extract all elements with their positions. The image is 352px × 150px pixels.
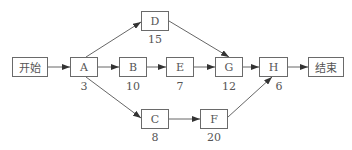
duration-h: 6 bbox=[264, 80, 294, 93]
node-a-label: A bbox=[80, 61, 88, 74]
node-g-label: G bbox=[225, 61, 234, 74]
node-c: C bbox=[141, 109, 169, 129]
node-d: D bbox=[141, 11, 169, 31]
node-h-label: H bbox=[269, 61, 279, 74]
node-g: G bbox=[215, 57, 243, 77]
node-a: A bbox=[70, 57, 98, 77]
node-h: H bbox=[259, 57, 288, 77]
node-b: B bbox=[119, 57, 147, 77]
node-start-label: 开始 bbox=[19, 59, 41, 75]
duration-f: 20 bbox=[199, 131, 229, 144]
node-e: E bbox=[166, 57, 194, 77]
duration-c: 8 bbox=[140, 131, 170, 144]
duration-e: 7 bbox=[165, 80, 195, 93]
duration-d: 15 bbox=[140, 33, 170, 46]
node-b-label: B bbox=[129, 61, 137, 74]
node-f: F bbox=[200, 109, 228, 129]
node-e-label: E bbox=[176, 61, 184, 74]
node-c-label: C bbox=[151, 113, 159, 126]
edge-a-d bbox=[86, 22, 141, 57]
node-start: 开始 bbox=[12, 57, 48, 77]
edge-d-g bbox=[169, 21, 229, 57]
duration-a: 3 bbox=[69, 80, 99, 93]
node-end: 结束 bbox=[308, 57, 344, 77]
duration-b: 10 bbox=[118, 80, 148, 93]
node-d-label: D bbox=[151, 15, 160, 28]
node-end-label: 结束 bbox=[315, 59, 337, 75]
node-f-label: F bbox=[210, 113, 218, 126]
duration-g: 12 bbox=[214, 80, 244, 93]
